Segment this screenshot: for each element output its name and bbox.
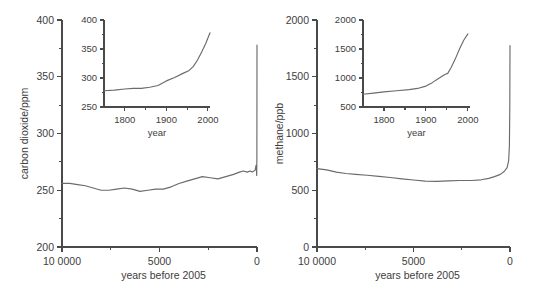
x-tick-label: 0 (507, 255, 513, 267)
y-tick-label: 250 (36, 184, 54, 196)
y-tick-label: 300 (81, 72, 97, 83)
greenhouse-gas-figure: 20025030035040010 000050000years before … (0, 0, 533, 296)
data-series-line (104, 33, 210, 91)
methane-chart: 050010001500200010 000050000years before… (267, 0, 533, 296)
y-tick-label: 1500 (335, 43, 356, 54)
ch4-inset-plot: 500100015002000180019002000year (335, 14, 479, 138)
y-tick-label: 400 (36, 14, 54, 26)
y-tick-label: 500 (291, 184, 309, 196)
x-axis-title: years before 2005 (375, 269, 460, 281)
y-tick-label: 250 (81, 101, 97, 112)
y-tick-label: 1000 (335, 72, 356, 83)
x-tick-label: 5000 (402, 255, 426, 267)
x-tick-label: 10 0000 (43, 255, 81, 267)
y-tick-label: 0 (303, 241, 309, 253)
y-axis-title: methane/ppb (273, 103, 285, 164)
axis-spine (363, 20, 470, 107)
panel-carbon-dioxide: 20025030035040010 000050000years before … (0, 0, 266, 296)
y-axis-title: carbon dioxide/ppm (18, 87, 30, 179)
x-tick-label: 1800 (114, 114, 135, 125)
x-axis-title: year (148, 127, 166, 138)
y-tick-label: 1000 (286, 127, 310, 139)
y-tick-label: 350 (81, 43, 97, 54)
y-tick-label: 500 (340, 101, 356, 112)
x-tick-label: 1900 (156, 114, 177, 125)
x-tick-label: 1900 (415, 114, 436, 125)
x-tick-label: 0 (254, 255, 260, 267)
data-series-line (363, 34, 468, 94)
x-tick-label: 2000 (197, 114, 218, 125)
y-tick-label: 200 (36, 241, 54, 253)
x-tick-label: 2000 (457, 114, 478, 125)
data-series-line (317, 46, 510, 182)
y-tick-label: 400 (81, 14, 97, 25)
y-tick-label: 2000 (286, 14, 310, 26)
panel-methane: 050010001500200010 000050000years before… (267, 0, 533, 296)
carbon-dioxide-chart: 20025030035040010 000050000years before … (0, 0, 266, 296)
x-tick-label: 1800 (373, 114, 394, 125)
co2-main-plot: 20025030035040010 000050000years before … (18, 14, 260, 281)
y-tick-label: 2000 (335, 14, 356, 25)
axis-spine (104, 20, 210, 107)
y-tick-label: 1500 (286, 70, 310, 82)
x-axis-title: year (407, 127, 425, 138)
ch4-main-plot: 050010001500200010 000050000years before… (273, 14, 513, 281)
co2-inset-plot: 250300350400180019002000year (81, 14, 218, 138)
y-tick-label: 300 (36, 127, 54, 139)
x-tick-label: 5000 (148, 255, 172, 267)
x-tick-label: 10 0000 (298, 255, 336, 267)
y-tick-label: 350 (36, 70, 54, 82)
x-axis-title: years before 2005 (121, 269, 206, 281)
